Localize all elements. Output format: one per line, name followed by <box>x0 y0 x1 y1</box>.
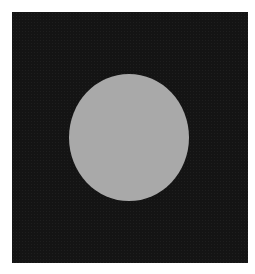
gray-disc <box>69 74 189 201</box>
dark-background-panel <box>12 12 248 263</box>
